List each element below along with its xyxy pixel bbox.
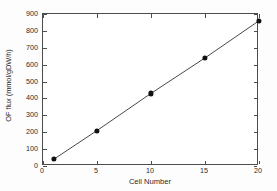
plot-area [42,13,258,165]
y-tick-label: 300 [26,110,38,119]
y-tick-mark [43,31,47,32]
y-tick-mark-right [254,31,258,32]
y-tick-mark-right [254,65,258,66]
y-tick-mark [43,149,47,150]
y-tick-label: 700 [26,42,38,51]
y-tick-mark-right [254,48,258,49]
y-tick-mark [43,115,47,116]
x-tick-label: 5 [94,166,98,175]
x-tick-label: 0 [40,166,44,175]
x-tick-mark [43,161,44,165]
x-tick-mark [205,161,206,165]
y-tick-mark [43,132,47,133]
y-tick-mark-right [254,115,258,116]
x-tick-mark [151,161,152,165]
y-tick-mark-right [254,149,258,150]
y-tick-mark [43,65,47,66]
x-tick-mark [259,161,260,165]
y-tick-label: 900 [26,9,38,18]
x-tick-mark-top [43,14,44,18]
y-tick-mark [43,48,47,49]
x-axis-title: Cell Number [42,177,258,186]
y-tick-mark [43,82,47,83]
x-tick-mark-top [151,14,152,18]
plot-inner [43,14,257,164]
chart-figure: OF flux (mmol/gDW/h) 0100200300400500600… [0,0,277,191]
y-tick-label: 0 [34,161,38,170]
x-tick-label: 15 [200,166,208,175]
y-tick-label: 400 [26,93,38,102]
y-tick-mark-right [254,98,258,99]
y-tick-label: 100 [26,144,38,153]
y-tick-mark-right [254,132,258,133]
x-tick-mark-top [259,14,260,18]
x-tick-label: 20 [254,166,262,175]
y-tick-mark [43,98,47,99]
y-tick-label: 800 [26,25,38,34]
y-tick-mark-right [254,82,258,83]
y-axis-title: OF flux (mmol/gDW/h) [4,49,13,122]
x-tick-label: 10 [146,166,154,175]
x-tick-mark-top [97,14,98,18]
x-tick-mark [97,161,98,165]
y-tick-mark-right [254,14,258,15]
y-tick-label: 600 [26,59,38,68]
y-tick-label: 200 [26,127,38,136]
series-polyline [54,21,259,159]
x-tick-mark-top [205,14,206,18]
y-tick-label: 500 [26,76,38,85]
data-point-marker [256,18,261,23]
y-axis-tick-labels: 0100200300400500600700800900 [14,13,40,165]
